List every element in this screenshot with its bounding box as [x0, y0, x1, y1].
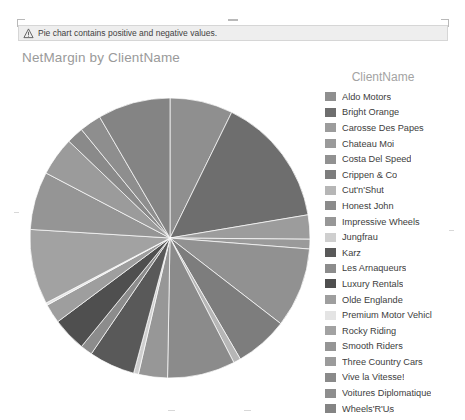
legend-item-label: Voitures Diplomatique: [342, 388, 431, 398]
legend-item[interactable]: Smooth Riders: [325, 339, 465, 355]
legend-item-label: Smooth Riders: [342, 341, 403, 351]
legend-item[interactable]: Luxury Rentals: [325, 276, 465, 292]
legend-item[interactable]: Voitures Diplomatique: [325, 385, 465, 401]
legend-item-label: Impressive Wheels: [342, 217, 420, 227]
legend-item-label: Jungfrau: [342, 232, 378, 242]
legend-item[interactable]: Cut'n'Shut: [325, 183, 465, 199]
legend-item-label: Aldo Motors: [342, 92, 391, 102]
chart-legend: ClientName Aldo MotorsBright OrangeCaros…: [325, 70, 465, 416]
legend-item-label: Costa Del Speed: [342, 154, 411, 164]
legend-item-label: Wheels'R'Us: [342, 404, 394, 414]
legend-item[interactable]: Costa Del Speed: [325, 151, 465, 167]
legend-item-label: Les Arnaqueurs: [342, 263, 406, 273]
legend-item[interactable]: Three Country Cars: [325, 354, 465, 370]
legend-item[interactable]: Les Arnaqueurs: [325, 261, 465, 277]
legend-color-swatch: [325, 248, 336, 257]
pie-chart[interactable]: [30, 98, 310, 378]
warning-triangle-icon: [23, 28, 34, 39]
legend-item[interactable]: Honest John: [325, 198, 465, 214]
page-artifact-mark: [389, 408, 390, 413]
legend-item-label: Honest John: [342, 201, 394, 211]
legend-item[interactable]: Jungfrau: [325, 229, 465, 245]
legend-item[interactable]: Carosse Des Papes: [325, 120, 465, 136]
legend-items: Aldo MotorsBright OrangeCarosse Des Pape…: [325, 89, 465, 416]
legend-color-swatch: [325, 373, 336, 382]
page-artifact-mark: [14, 212, 19, 213]
legend-color-swatch: [325, 217, 336, 226]
legend-item-label: Cut'n'Shut: [342, 185, 384, 195]
warning-bar: Pie chart contains positive and negative…: [18, 25, 448, 41]
legend-color-swatch: [325, 404, 336, 413]
legend-title: ClientName: [327, 70, 439, 84]
legend-item[interactable]: Crippen & Co: [325, 167, 465, 183]
legend-item-label: Bright Orange: [342, 107, 399, 117]
legend-item-label: Crippen & Co: [342, 170, 397, 180]
legend-item[interactable]: Wheels'R'Us: [325, 401, 465, 417]
page-artifact-mark: [449, 230, 454, 231]
legend-item[interactable]: Impressive Wheels: [325, 214, 465, 230]
legend-item[interactable]: Bright Orange: [325, 105, 465, 121]
legend-color-swatch: [325, 92, 336, 101]
legend-color-swatch: [325, 326, 336, 335]
legend-item-label: Chateau Moi: [342, 139, 394, 149]
legend-color-swatch: [325, 342, 336, 351]
legend-color-swatch: [325, 155, 336, 164]
legend-item[interactable]: Karz: [325, 245, 465, 261]
legend-item[interactable]: Rocky Riding: [325, 323, 465, 339]
legend-color-swatch: [325, 201, 336, 210]
legend-color-swatch: [325, 295, 336, 304]
legend-color-swatch: [325, 170, 336, 179]
legend-item[interactable]: Olde Englande: [325, 292, 465, 308]
legend-color-swatch: [325, 139, 336, 148]
legend-color-swatch: [325, 389, 336, 398]
legend-color-swatch: [325, 264, 336, 273]
warning-message: Pie chart contains positive and negative…: [38, 29, 217, 38]
legend-item[interactable]: Vive la Vitesse!: [325, 370, 465, 386]
legend-item-label: Premium Motor Vehicl: [342, 310, 432, 320]
legend-color-swatch: [325, 279, 336, 288]
legend-item[interactable]: Premium Motor Vehicl: [325, 307, 465, 323]
legend-color-swatch: [325, 123, 336, 132]
legend-item-label: Rocky Riding: [342, 326, 396, 336]
legend-item-label: Three Country Cars: [342, 357, 423, 367]
legend-item-label: Luxury Rentals: [342, 279, 403, 289]
legend-color-swatch: [325, 357, 336, 366]
chart-title: NetMargin by ClientName: [22, 50, 180, 65]
legend-item-label: Karz: [342, 248, 361, 258]
page-artifact-mark: [168, 410, 175, 411]
legend-color-swatch: [325, 108, 336, 117]
legend-item-label: Olde Englande: [342, 295, 403, 305]
legend-item-label: Carosse Des Papes: [342, 123, 424, 133]
page-artifact-mark: [244, 410, 251, 411]
pie-chart-svg[interactable]: [30, 98, 310, 378]
legend-color-swatch: [325, 311, 336, 320]
selection-handle-top-middle[interactable]: [228, 19, 238, 21]
legend-color-swatch: [325, 233, 336, 242]
pie-slice-group[interactable]: [30, 98, 310, 378]
legend-color-swatch: [325, 186, 336, 195]
legend-item-label: Vive la Vitesse!: [342, 372, 404, 382]
legend-item[interactable]: Aldo Motors: [325, 89, 465, 105]
legend-item[interactable]: Chateau Moi: [325, 136, 465, 152]
